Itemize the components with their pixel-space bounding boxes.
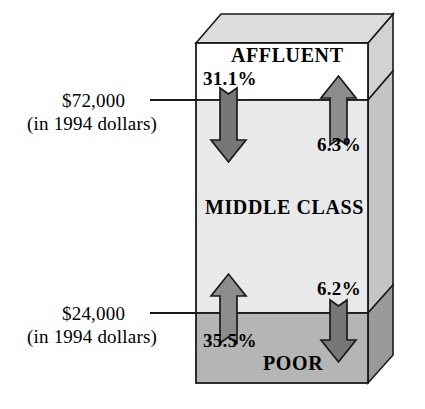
flow-value-middle-to-poor: 6.2%: [317, 278, 361, 300]
threshold-amount-lower: $24,000: [62, 303, 125, 325]
threshold-note-lower: (in 1994 dollars): [27, 326, 157, 348]
flow-value-affluent-to-middle: 31.1%: [203, 68, 257, 90]
band-label-middle-class: MIDDLE CLASS: [205, 196, 364, 219]
side-face-middle-class: [368, 71, 393, 313]
band-label-affluent: AFFLUENT: [231, 44, 344, 67]
threshold-note-upper: (in 1994 dollars): [27, 113, 157, 135]
flow-value-middle-to-affluent: 6.3%: [317, 134, 361, 156]
flow-value-poor-to-middle: 35.5%: [203, 330, 257, 352]
income-mobility-figure: AFFLUENT MIDDLE CLASS POOR 31.1% 6.3% 35…: [0, 0, 425, 409]
top-face: [196, 14, 393, 43]
threshold-amount-upper: $72,000: [62, 90, 125, 112]
band-label-poor: POOR: [263, 352, 323, 375]
